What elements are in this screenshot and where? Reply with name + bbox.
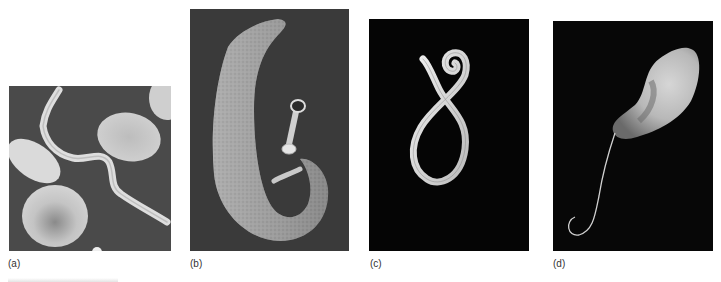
red-blood-cell [9, 130, 68, 192]
red-blood-cell [22, 185, 88, 247]
flagellate-micrograph [553, 21, 713, 251]
trypanosome-micrograph [9, 86, 171, 251]
female-worm [288, 107, 297, 149]
roundworm-micrograph [369, 19, 529, 251]
panel-label-c: (c) [370, 258, 382, 270]
micrograph-panel-b [190, 9, 349, 251]
schistosome-micrograph [190, 9, 349, 251]
micrograph-panel-a [9, 86, 171, 251]
cropped-caption-edge [8, 278, 118, 282]
panel-label-a: (a) [8, 258, 20, 270]
panel-label-d: (d) [553, 258, 565, 270]
red-blood-cell [149, 86, 171, 120]
micrograph-panel-d [553, 21, 713, 251]
micrograph-panel-c [369, 19, 529, 251]
panel-label-b: (b) [190, 258, 202, 270]
flagellum [569, 133, 615, 235]
